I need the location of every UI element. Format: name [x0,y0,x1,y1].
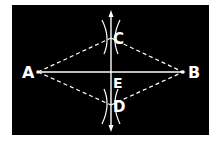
point-b [181,70,185,74]
point-a [36,70,40,74]
label-d: D [113,98,125,116]
label-c: C [113,30,124,48]
bisector-diagram: A B C D E [0,0,218,142]
label-a: A [22,63,35,82]
label-e: E [113,75,123,91]
label-b: B [188,63,200,82]
